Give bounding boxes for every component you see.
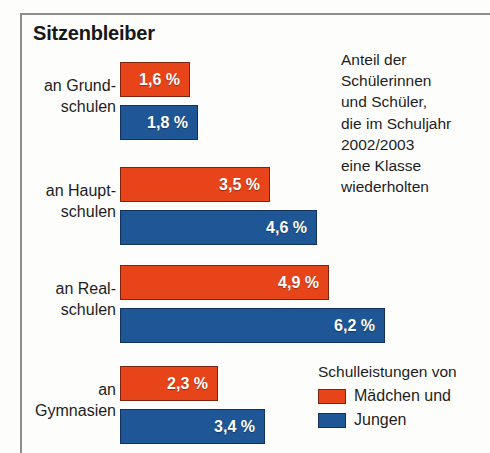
bar-value-label: 2,3 %	[167, 375, 217, 393]
bar-value-label: 1,6 %	[139, 71, 189, 89]
category-label-line: Gymnasien	[28, 400, 116, 421]
legend-label-girls: Mädchen und	[354, 387, 451, 405]
infographic-figure: Sitzenbleiber Anteil der Schülerinnen un…	[0, 0, 490, 453]
bar-boys[interactable]: 1,8 %	[120, 105, 198, 140]
category-label-line: schulen	[28, 96, 116, 117]
category-label: an Real- schulen	[28, 278, 116, 320]
category-label-line: schulen	[28, 201, 116, 222]
bar-value-label: 4,9 %	[278, 274, 328, 292]
legend-item-girls[interactable]: Mädchen und	[318, 387, 486, 405]
bar-boys[interactable]: 6,2 %	[120, 308, 385, 343]
category-label: an Gymnasien	[28, 379, 116, 421]
category-label: an Haupt- schulen	[28, 180, 116, 222]
bar-boys[interactable]: 3,4 %	[120, 409, 265, 444]
legend-label-boys: Jungen	[354, 411, 407, 429]
bar-value-label: 3,5 %	[219, 176, 269, 194]
category-label-line: an Real-	[28, 278, 116, 299]
category-label-line: schulen	[28, 299, 116, 320]
legend-swatch-girls-icon	[318, 389, 346, 404]
legend: Schulleistungen von Mädchen und Jungen	[318, 363, 486, 435]
category-label: an Grund- schulen	[28, 75, 116, 117]
category-label-line: an Haupt-	[28, 180, 116, 201]
bar-girls[interactable]: 2,3 %	[120, 366, 218, 401]
bar-value-label: 4,6 %	[266, 219, 316, 237]
category-label-line: an	[28, 379, 116, 400]
bar-boys[interactable]: 4,6 %	[120, 210, 317, 245]
bar-value-label: 3,4 %	[214, 418, 264, 436]
bar-girls[interactable]: 3,5 %	[120, 167, 270, 202]
legend-item-boys[interactable]: Jungen	[318, 411, 486, 429]
legend-title: Schulleistungen von	[318, 363, 486, 381]
category-label-line: an Grund-	[28, 75, 116, 96]
bar-girls[interactable]: 1,6 %	[120, 62, 190, 97]
bar-value-label: 6,2 %	[334, 317, 384, 335]
bar-girls[interactable]: 4,9 %	[120, 265, 329, 300]
legend-swatch-boys-icon	[318, 413, 346, 428]
bar-value-label: 1,8 %	[147, 114, 197, 132]
